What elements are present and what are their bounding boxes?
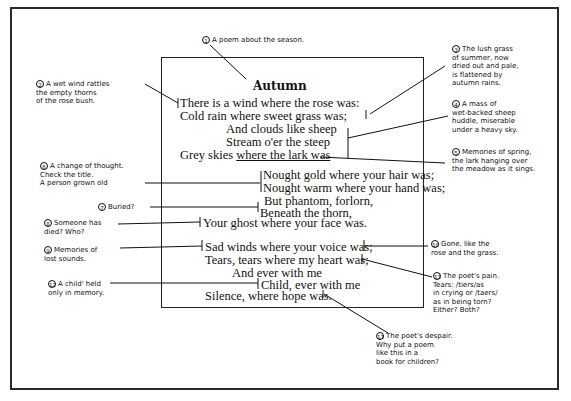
annotation-4: 4A mass of wet-backed sheep huddle, mise… (452, 100, 518, 134)
poem-line: Nought gold where your hair was; (263, 168, 434, 182)
annotation-6: 6A change of thought. Check the title. A… (40, 162, 124, 188)
annotation-13: 13The poet's despair. Why put a poem lik… (376, 332, 452, 366)
number-circle-icon: 7 (98, 203, 106, 211)
annotation-1: 1A poem about the season. (202, 36, 304, 45)
poem-line: Nought warm where your hand was; (263, 181, 445, 195)
number-circle-icon: 2 (36, 80, 44, 88)
annotation-5: 5Memories of spring, the lark hanging ov… (452, 148, 535, 174)
poem-line: Sad winds where your voice was; (205, 240, 373, 254)
poem-line: And clouds like sheep (226, 122, 337, 136)
number-circle-icon: 4 (452, 100, 460, 108)
annotation-12: 12A child' held only in memory. (48, 280, 104, 297)
number-circle-icon: 13 (376, 332, 384, 340)
number-circle-icon: 11 (433, 272, 441, 280)
poem-line: Tears, tears where my heart was; (205, 253, 369, 267)
poem-title: Autumn (253, 79, 307, 93)
annotation-8: 8Someone has died? Who? (44, 219, 101, 236)
number-circle-icon: 8 (44, 219, 52, 227)
poem-line: Stream o'er the steep (226, 135, 330, 149)
poem-line: Your ghost where your face was. (203, 216, 367, 230)
number-circle-icon: 9 (44, 246, 52, 254)
number-circle-icon: 12 (48, 280, 56, 288)
annotation-10: 10Gone, like the rose and the grass. (431, 240, 498, 257)
annotation-9: 9Memories of lost sounds. (44, 246, 97, 263)
poem-line: There is a wind where the rose was: (180, 96, 359, 110)
number-circle-icon: 5 (452, 148, 460, 156)
annotation-11: 11The poet's pain. Tears: /tiers/as in c… (433, 272, 499, 315)
poem-line: Grey skies where the lark was (180, 148, 330, 162)
number-circle-icon: 10 (431, 240, 439, 248)
poem-line: Cold rain where sweet grass was; (180, 109, 347, 123)
annotation-7: 7Buried? (98, 203, 135, 212)
annotation-2: 2A wet wind rattles the empty thorns of … (36, 80, 109, 106)
poem-line: Silence, where hope was. (205, 289, 332, 303)
annotation-3: 3The lush grass of summer, now dried out… (452, 45, 519, 88)
poem-line-start: Grey skies (180, 148, 236, 162)
underlined-phrase: where the lark was (236, 148, 330, 162)
number-circle-icon: 3 (452, 45, 460, 53)
number-circle-icon: 1 (202, 36, 210, 44)
number-circle-icon: 6 (40, 162, 48, 170)
